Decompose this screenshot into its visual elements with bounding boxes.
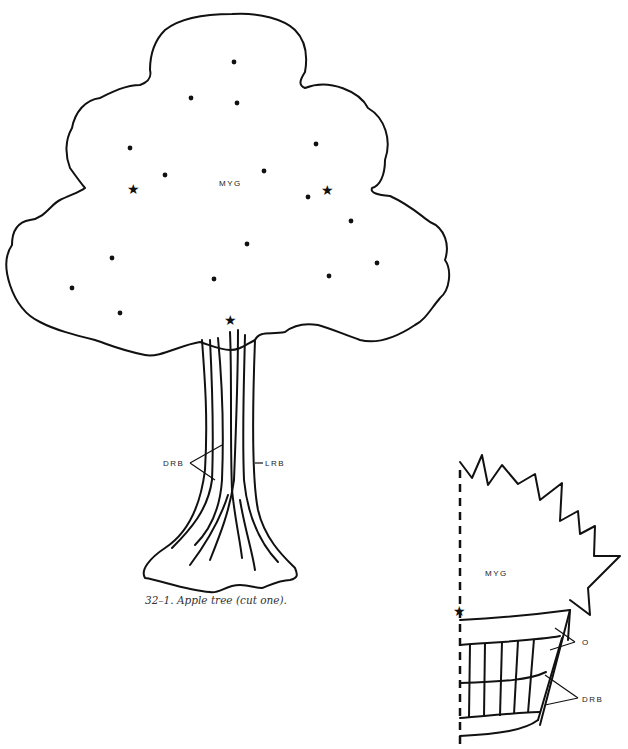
basket-piece: MYG O DRB bbox=[460, 455, 620, 749]
rim-label: O bbox=[582, 638, 590, 647]
svg-text:★: ★ bbox=[224, 312, 237, 328]
tree-caption: 32–1. Apple tree (cut one). bbox=[145, 594, 287, 606]
svg-text:★: ★ bbox=[321, 182, 334, 198]
star-icon: ★ ★ ★ ★ bbox=[127, 181, 466, 619]
basket-top-label: MYG bbox=[485, 569, 508, 578]
light-bark-label: LRB bbox=[265, 459, 285, 468]
dark-bark-label: DRB bbox=[163, 459, 184, 468]
crown-label: MYG bbox=[219, 179, 242, 188]
slats-label: DRB bbox=[582, 695, 603, 704]
svg-text:★: ★ bbox=[127, 181, 140, 197]
apple-tree-pattern-figure: ★ ★ ★ ★ MYG DRB LRB 32–1. Apple tree (cu… bbox=[0, 0, 628, 749]
